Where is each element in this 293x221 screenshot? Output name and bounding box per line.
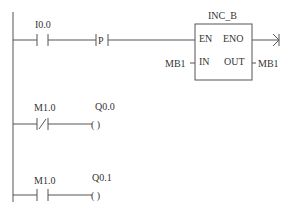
contact-address: M1.0 (34, 175, 55, 186)
coil-address: Q0.0 (95, 101, 115, 112)
in-operand: MB1 (165, 58, 186, 69)
coil-symbol: ( ) (91, 190, 100, 202)
pin-in: IN (199, 56, 210, 67)
pin-out: OUT (224, 56, 245, 67)
edge-label: P (98, 35, 104, 46)
inc-b-function-block[interactable]: INC_B EN ENO IN OUT (195, 10, 252, 80)
coil-address: Q0.1 (92, 172, 112, 183)
coil-q0-0[interactable]: ( ) (91, 119, 100, 131)
coil-q0-1[interactable]: ( ) (91, 190, 100, 202)
contact-address: I0.0 (35, 19, 51, 30)
block-name: INC_B (208, 10, 237, 21)
out-operand: MB1 (258, 58, 279, 69)
rung-1: I0.0 P INC_B EN ENO IN OUT MB1 MB1 (13, 10, 279, 80)
coil-symbol: ( ) (91, 119, 100, 131)
ladder-diagram: I0.0 P INC_B EN ENO IN OUT MB1 MB1 (0, 0, 293, 221)
contact-no-i0-0[interactable] (37, 34, 48, 46)
rung-3: M1.0 ( ) Q0.1 (13, 172, 112, 202)
contact-nc-m1-0[interactable] (37, 118, 48, 130)
pin-eno: ENO (223, 33, 244, 44)
contact-address: M1.0 (34, 102, 55, 113)
pin-en: EN (199, 33, 212, 44)
contact-no-m1-0[interactable] (37, 189, 48, 201)
rung-2: M1.0 ( ) Q0.0 (13, 101, 115, 131)
positive-edge-detector[interactable]: P (96, 34, 108, 46)
